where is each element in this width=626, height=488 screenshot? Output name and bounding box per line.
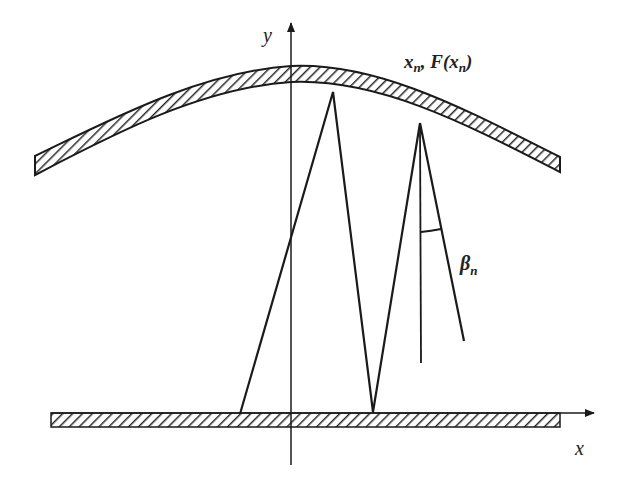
point-label: xn, F(xn) xyxy=(403,51,472,75)
angle-label-beta: βn xyxy=(459,252,477,278)
y-axis-label: y xyxy=(261,24,272,47)
x-axis-label: x xyxy=(574,437,584,459)
ray-path xyxy=(240,92,420,414)
diagram-canvas: y x xn, F(xn) βn xyxy=(0,0,626,488)
normal-line xyxy=(420,123,421,363)
upper-boundary-curve xyxy=(35,66,560,175)
lower-boundary-strip xyxy=(51,413,560,427)
angle-arc-beta xyxy=(421,229,441,232)
